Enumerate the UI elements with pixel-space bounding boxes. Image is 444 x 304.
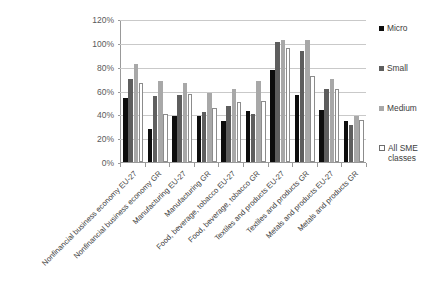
y-axis-tick-label: 120% [92, 15, 114, 25]
bar-group [244, 20, 269, 162]
bar [123, 98, 128, 162]
bar [153, 96, 158, 162]
bar [275, 42, 280, 162]
bar [300, 51, 305, 162]
bar [212, 108, 217, 162]
bar [286, 48, 291, 162]
bar [128, 79, 133, 162]
bar [246, 111, 251, 162]
bar [354, 116, 359, 162]
bar-chart: 120% 100% 80% 60% 40% 20% 0% Nonfinancia… [0, 0, 444, 304]
bar [134, 64, 139, 162]
white-square-icon [379, 145, 385, 151]
plot-area [120, 20, 366, 163]
legend-item-all-sme-classes: All SME classes [379, 144, 418, 163]
bar [158, 81, 163, 162]
bar [319, 110, 324, 162]
dark-gray-square-icon [379, 66, 384, 71]
bar-group [121, 20, 146, 162]
bar-group [146, 20, 171, 162]
bar [226, 106, 231, 162]
bar [202, 112, 207, 162]
bar [256, 81, 261, 162]
bar [188, 94, 193, 162]
legend-item-micro: Micro [379, 24, 407, 34]
bar [251, 114, 256, 162]
bar [183, 83, 188, 162]
legend-item-label: Medium [387, 104, 417, 114]
bar-group [317, 20, 342, 162]
bar-groups [121, 20, 366, 162]
bar-group [293, 20, 318, 162]
y-axis-tick-label: 100% [92, 39, 114, 49]
bar [261, 101, 266, 162]
bar [148, 129, 153, 162]
black-square-icon [379, 26, 384, 31]
bar [305, 40, 310, 162]
legend-item-medium: Medium [379, 104, 417, 114]
legend-item-small: Small [379, 64, 408, 74]
legend-item-label: Micro [387, 24, 407, 34]
legend-item-label: Small [387, 64, 408, 74]
bar [139, 83, 144, 162]
bar [330, 79, 335, 162]
bar [177, 95, 182, 162]
y-axis-tick-label: 20% [97, 134, 114, 144]
y-axis-tick-label: 80% [97, 63, 114, 73]
bar [207, 93, 212, 162]
bar [344, 121, 349, 162]
bar [281, 40, 286, 162]
bar-group [342, 20, 367, 162]
legend-item-label: All SME classes [388, 144, 418, 163]
y-axis-tick-label: 40% [97, 110, 114, 120]
bar [310, 76, 315, 162]
bar [270, 70, 275, 162]
bar [237, 102, 242, 162]
bar [359, 120, 364, 162]
bar-group [195, 20, 220, 162]
bar [295, 95, 300, 162]
bar [197, 116, 202, 162]
bar [163, 114, 168, 162]
y-axis-tick-label: 60% [97, 87, 114, 97]
bar [324, 89, 329, 162]
y-axis: 120% 100% 80% 60% 40% 20% 0% [78, 13, 118, 170]
bar [335, 89, 340, 162]
bar-group [170, 20, 195, 162]
bar [172, 116, 177, 162]
light-gray-square-icon [379, 106, 384, 111]
bar [232, 89, 237, 162]
bar [221, 121, 226, 162]
chart-legend: Micro Small Medium All SME classes [379, 20, 443, 165]
bar-group [219, 20, 244, 162]
bar [349, 125, 354, 162]
x-axis-labels: Nonfinancial business economy EU-27Nonfi… [0, 167, 444, 304]
bar-group [268, 20, 293, 162]
